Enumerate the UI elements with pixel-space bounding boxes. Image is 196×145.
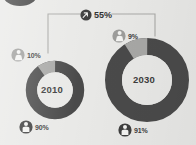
male-percent-label-2030: 91% xyxy=(134,127,148,134)
top-dark-blob-decoration xyxy=(3,0,37,6)
infographic-panel: 55% 2010 2030 10% 90% 9% 91% xyxy=(0,0,196,145)
growth-arrow-icon xyxy=(80,9,91,20)
male-person-icon-2010 xyxy=(19,120,32,133)
female-percent-label-2010: 10% xyxy=(27,52,41,59)
donut-center-label-2030: 2030 xyxy=(133,75,155,85)
female-person-icon-2010 xyxy=(11,48,24,61)
male-person-icon-2030 xyxy=(118,123,131,136)
female-percent-label-2030: 9% xyxy=(128,33,138,40)
male-percent-label-2010: 90% xyxy=(35,124,49,131)
infographic-canvas xyxy=(0,0,196,145)
donut-center-label-2010: 2010 xyxy=(41,85,63,95)
growth-percent-label: 55% xyxy=(94,11,112,20)
female-person-icon-2030 xyxy=(112,29,125,42)
